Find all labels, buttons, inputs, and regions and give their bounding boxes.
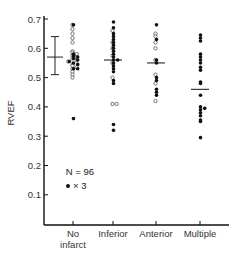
open-point — [154, 47, 157, 50]
category-label: Multiple — [184, 228, 217, 239]
y-tick-label: 0.4 — [28, 101, 41, 112]
category-label: infarct — [60, 239, 86, 250]
open-point — [71, 76, 74, 79]
filled-point — [72, 23, 76, 27]
legend: N = 96 × 3 — [66, 166, 94, 191]
category-label: No — [67, 228, 79, 239]
filled-point — [199, 93, 203, 97]
category-label: Inferior — [98, 228, 128, 239]
filled-point — [112, 82, 116, 86]
open-point — [71, 41, 74, 44]
filled-point — [199, 136, 203, 140]
filled-point — [112, 129, 116, 133]
y-axis-label: RVEF — [5, 100, 16, 125]
filled-point — [72, 61, 76, 65]
data-points — [67, 20, 207, 139]
filled-point — [72, 67, 76, 71]
filled-dot-icon — [66, 184, 70, 188]
open-point — [71, 32, 74, 35]
open-point — [71, 28, 74, 31]
open-point — [154, 99, 157, 102]
filled-point — [112, 70, 116, 74]
open-point — [71, 36, 74, 39]
y-tick-label: 0.3 — [28, 131, 41, 142]
category-label: Anterior — [139, 228, 172, 239]
filled-point — [199, 82, 203, 86]
multiplier-label: × 3 — [73, 180, 86, 191]
filled-point — [155, 38, 159, 42]
reference-range-bar — [47, 37, 63, 75]
filled-point — [68, 60, 72, 64]
filled-point — [199, 68, 203, 72]
filled-point — [203, 107, 207, 111]
filled-point — [199, 114, 203, 118]
filled-point — [199, 120, 203, 124]
y-axis-ticks: 0.10.20.30.40.50.60.7 — [28, 14, 48, 201]
y-tick-label: 0.1 — [28, 189, 41, 200]
sample-size-label: N = 96 — [66, 166, 94, 177]
filled-point — [112, 123, 116, 127]
filled-point — [72, 117, 76, 121]
y-tick-label: 0.6 — [28, 43, 41, 54]
rvef-dot-plot: 0.10.20.30.40.50.60.7 NoinfarctInferiorA… — [0, 0, 235, 254]
filled-point — [199, 61, 203, 65]
y-tick-label: 0.5 — [28, 72, 41, 83]
open-point — [111, 102, 114, 105]
filled-point — [155, 23, 159, 27]
y-tick-label: 0.7 — [28, 14, 41, 25]
filled-point — [76, 63, 80, 67]
filled-point — [72, 57, 76, 61]
y-tick-label: 0.2 — [28, 160, 41, 171]
filled-point — [112, 20, 116, 24]
filled-point — [76, 58, 80, 62]
open-point — [115, 102, 118, 105]
filled-point — [112, 26, 116, 30]
filled-point — [155, 79, 159, 83]
filled-point — [76, 67, 80, 71]
filled-point — [155, 93, 159, 97]
filled-point — [199, 39, 203, 43]
